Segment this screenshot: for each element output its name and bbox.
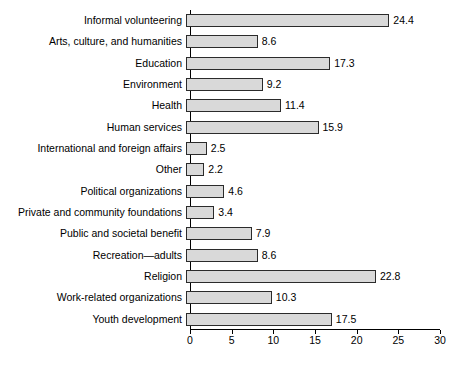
bar-row: Private and community foundations3.4 bbox=[0, 202, 465, 223]
bar-value-label: 8.6 bbox=[262, 250, 277, 261]
bar-row: Public and societal benefit7.9 bbox=[0, 223, 465, 244]
category-label: Private and community foundations bbox=[0, 207, 186, 218]
bar-row: Work-related organizations10.3 bbox=[0, 287, 465, 308]
bar-value-label: 17.3 bbox=[334, 58, 354, 69]
bar-rows: Informal volunteering24.4Arts, culture, … bbox=[0, 10, 465, 330]
bar-row: Informal volunteering24.4 bbox=[0, 10, 465, 31]
x-axis: 051015202530 bbox=[190, 330, 440, 354]
bar-container: 4.6 bbox=[186, 181, 461, 202]
category-label: Youth development bbox=[0, 314, 186, 325]
x-tick-label: 10 bbox=[267, 335, 279, 346]
bar-value-label: 3.4 bbox=[218, 207, 233, 218]
bar bbox=[186, 206, 214, 219]
bar bbox=[186, 163, 204, 176]
category-label: Arts, culture, and humanities bbox=[0, 36, 186, 47]
category-label: Informal volunteering bbox=[0, 15, 186, 26]
bar-value-label: 9.2 bbox=[267, 79, 282, 90]
bar-container: 7.9 bbox=[186, 223, 461, 244]
x-tick-label: 5 bbox=[229, 335, 235, 346]
bar-value-label: 15.9 bbox=[323, 122, 343, 133]
category-label: Other bbox=[0, 164, 186, 175]
category-label: International and foreign affairs bbox=[0, 143, 186, 154]
bar bbox=[186, 57, 330, 70]
bar-container: 3.4 bbox=[186, 202, 461, 223]
x-tick-label: 0 bbox=[187, 335, 193, 346]
bar bbox=[186, 227, 252, 240]
category-label: Health bbox=[0, 100, 186, 111]
bar bbox=[186, 142, 207, 155]
category-label: Recreation—adults bbox=[0, 250, 186, 261]
bar-row: Other2.2 bbox=[0, 159, 465, 180]
category-label: Human services bbox=[0, 122, 186, 133]
x-tick-label: 25 bbox=[392, 335, 404, 346]
bar bbox=[186, 185, 224, 198]
category-label: Work-related organizations bbox=[0, 292, 186, 303]
bar-value-label: 24.4 bbox=[393, 15, 413, 26]
bar-value-label: 11.4 bbox=[285, 100, 305, 111]
bar-row: Arts, culture, and humanities8.6 bbox=[0, 31, 465, 52]
bar-value-label: 22.8 bbox=[380, 271, 400, 282]
bar bbox=[186, 14, 389, 27]
bar bbox=[186, 35, 258, 48]
bar bbox=[186, 249, 258, 262]
bar-value-label: 7.9 bbox=[256, 228, 271, 239]
bar-value-label: 2.5 bbox=[211, 143, 226, 154]
bar-container: 17.5 bbox=[186, 309, 461, 330]
bar-container: 17.3 bbox=[186, 53, 461, 74]
bar-container: 8.6 bbox=[186, 31, 461, 52]
bar bbox=[186, 270, 376, 283]
bar bbox=[186, 121, 319, 134]
category-label: Religion bbox=[0, 271, 186, 282]
bar-container: 22.8 bbox=[186, 266, 461, 287]
bar-row: Recreation—adults8.6 bbox=[0, 245, 465, 266]
bar-value-label: 2.2 bbox=[208, 164, 223, 175]
bar-row: Human services15.9 bbox=[0, 117, 465, 138]
bar-container: 8.6 bbox=[186, 245, 461, 266]
bar-container: 2.2 bbox=[186, 159, 461, 180]
bar-container: 24.4 bbox=[186, 10, 461, 31]
bar-row: Environment9.2 bbox=[0, 74, 465, 95]
bar bbox=[186, 78, 263, 91]
bar-row: Religion22.8 bbox=[0, 266, 465, 287]
bar-value-label: 17.5 bbox=[336, 314, 356, 325]
x-tick-label: 15 bbox=[309, 335, 321, 346]
bar-value-label: 10.3 bbox=[276, 292, 296, 303]
category-label: Political organizations bbox=[0, 186, 186, 197]
bar-value-label: 4.6 bbox=[228, 186, 243, 197]
bar-row: Political organizations4.6 bbox=[0, 181, 465, 202]
bar-row: Health11.4 bbox=[0, 95, 465, 116]
category-label: Environment bbox=[0, 79, 186, 90]
bar-container: 11.4 bbox=[186, 95, 461, 116]
category-label: Public and societal benefit bbox=[0, 228, 186, 239]
bar-row: Education17.3 bbox=[0, 53, 465, 74]
x-tick-label: 30 bbox=[434, 335, 446, 346]
bar-row: Youth development17.5 bbox=[0, 309, 465, 330]
bar bbox=[186, 99, 281, 112]
bar-container: 9.2 bbox=[186, 74, 461, 95]
bar-value-label: 8.6 bbox=[262, 36, 277, 47]
bar-row: International and foreign affairs2.5 bbox=[0, 138, 465, 159]
category-label: Education bbox=[0, 58, 186, 69]
bar-container: 10.3 bbox=[186, 287, 461, 308]
bar bbox=[186, 313, 332, 326]
x-tick-label: 20 bbox=[351, 335, 363, 346]
bar bbox=[186, 291, 272, 304]
bar-container: 2.5 bbox=[186, 138, 461, 159]
bar-chart: Informal volunteering24.4Arts, culture, … bbox=[0, 0, 465, 372]
bar-container: 15.9 bbox=[186, 117, 461, 138]
